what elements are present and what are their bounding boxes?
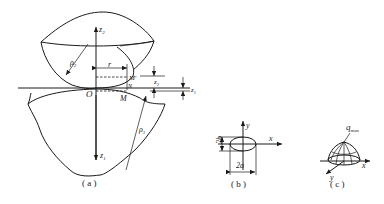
z1-axis-label: z1 (99, 151, 106, 161)
m-label: M (119, 94, 128, 103)
upper-body-lower-outline (41, 42, 96, 89)
y-axis-c (326, 161, 344, 174)
figure-a: z2 z1 O ρ2 ρ1 r M′ N M (18, 12, 196, 188)
rho2-label: ρ2 (69, 58, 77, 68)
upper-body-rim (41, 41, 154, 46)
caption-c: ( c ) (330, 179, 345, 189)
figure-c: x y qmax ( c ) (320, 122, 370, 189)
origin-label: O (86, 89, 93, 99)
caption-b: ( b ) (231, 179, 246, 189)
2b-label: 2b (215, 136, 224, 144)
figure-b: x y 2b 2a ( b ) (215, 121, 282, 189)
z2-axis-label: z2 (98, 25, 105, 35)
upper-body-right-outline (133, 41, 154, 70)
upper-body-inner-curve (96, 47, 134, 88)
m-prime-label: M′ (128, 74, 137, 82)
contact-diagram: z2 z1 O ρ2 ρ1 r M′ N M (0, 0, 384, 204)
2a-label: 2a (236, 161, 244, 170)
rho1-label: ρ1 (138, 125, 145, 135)
upper-body-top-outline (41, 12, 154, 42)
qmax-leader (344, 133, 350, 142)
qmax-label: qmax (346, 122, 360, 133)
x-axis-label-c: x (361, 161, 366, 170)
z2-gap-label: z2 (153, 78, 160, 87)
y-axis-label-b: y (245, 121, 250, 130)
x-axis-label-b: x (268, 134, 273, 143)
caption-a: ( a ) (82, 178, 97, 188)
z1-gap-label: z1 (190, 86, 196, 95)
